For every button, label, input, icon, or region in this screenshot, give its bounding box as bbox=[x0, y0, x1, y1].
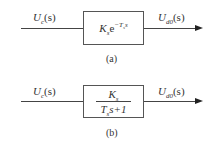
block-a-expression: Kse−Tss bbox=[84, 21, 143, 37]
input-label-b: Uc(s) bbox=[33, 85, 56, 100]
arrow-head-icon bbox=[195, 98, 203, 104]
output-signal-line-a bbox=[144, 28, 196, 29]
input-signal-line-b bbox=[21, 101, 83, 102]
caption-a: (a) bbox=[106, 53, 117, 64]
output-label-b: Ud0(s) bbox=[158, 85, 185, 100]
fraction-bar bbox=[96, 101, 131, 102]
output-signal-line-b bbox=[144, 101, 196, 102]
input-signal-line-a bbox=[21, 28, 83, 29]
transfer-block-a: Kse−Tss bbox=[83, 11, 144, 45]
input-label-a: Uc(s) bbox=[33, 11, 56, 26]
arrow-head-icon bbox=[195, 25, 203, 31]
block-b-denominator: Tss+1 bbox=[84, 103, 143, 118]
transfer-block-b: Ks Tss+1 bbox=[83, 85, 144, 118]
caption-b: (b) bbox=[106, 127, 118, 138]
output-label-a: Ud0(s) bbox=[158, 11, 185, 26]
